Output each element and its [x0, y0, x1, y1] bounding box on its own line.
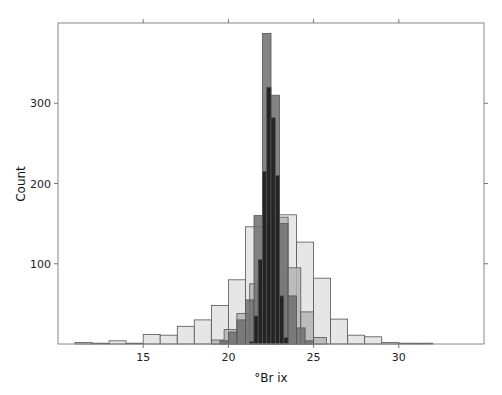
histogram-chart: 15202530 100200300 °Br ix Count — [0, 0, 502, 395]
y-tick-label: 300 — [30, 97, 51, 110]
x-tick-label: 25 — [307, 351, 321, 364]
histogram-bar — [288, 296, 297, 344]
histogram-bar — [194, 320, 211, 344]
histogram-bar — [271, 118, 275, 344]
histogram-bar — [280, 296, 284, 344]
histogram-bar — [143, 334, 160, 344]
histogram-bar — [263, 172, 267, 345]
y-axis-title: Count — [14, 166, 28, 202]
histogram-bar — [284, 338, 288, 344]
histogram-bar — [258, 260, 262, 344]
histogram-bar — [160, 335, 177, 344]
histogram-bar — [365, 337, 382, 344]
x-tick-label: 15 — [136, 351, 150, 364]
histogram-bar — [228, 332, 237, 344]
histogram-bar — [254, 316, 258, 344]
histogram-bar — [275, 176, 279, 345]
y-tick-label: 100 — [30, 258, 51, 271]
histogram-bar — [331, 319, 348, 344]
y-tick-label: 200 — [30, 178, 51, 191]
histogram-bars — [75, 33, 433, 344]
histogram-bar — [177, 326, 194, 344]
x-axis-title: °Br ix — [254, 371, 287, 385]
histogram-bar — [245, 300, 254, 344]
histogram-bar — [297, 328, 306, 344]
histogram-bar — [237, 320, 246, 344]
x-tick-label: 30 — [392, 351, 406, 364]
histogram-bar — [314, 338, 327, 344]
histogram-bar — [348, 335, 365, 344]
histogram-bar — [267, 87, 271, 344]
histogram-bar — [314, 278, 331, 344]
x-tick-label: 20 — [221, 351, 235, 364]
